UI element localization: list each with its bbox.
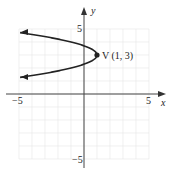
y-axis-arrow-icon: [81, 7, 87, 15]
curve-arrow-bottom-icon: [21, 74, 28, 80]
x-max-tick-label: 5: [146, 95, 151, 106]
x-axis-label: x: [160, 97, 166, 108]
y-min-tick-label: −5: [72, 154, 83, 165]
y-axis-label: y: [90, 5, 96, 16]
vertex-label: V (1, 3): [102, 50, 133, 62]
parabola-graph: V (1, 3) y x −5 5 5 −5: [0, 0, 173, 175]
x-min-tick-label: −5: [12, 95, 23, 106]
vertex-point: [94, 52, 99, 57]
y-max-tick-label: 5: [77, 23, 82, 34]
